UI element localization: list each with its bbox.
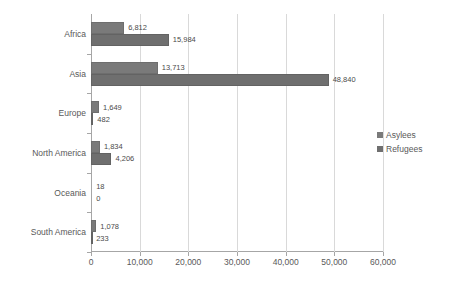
category-label: Africa bbox=[0, 29, 86, 39]
value-tick-label: 30,000 bbox=[224, 257, 250, 267]
bar-refugees-south-america bbox=[91, 232, 93, 244]
legend-swatch-refugees-icon bbox=[377, 146, 383, 152]
bar-value-label: 0 bbox=[96, 194, 100, 203]
legend-swatch-asylees-icon bbox=[377, 132, 383, 138]
legend-item-asylees: Asylees bbox=[377, 128, 422, 142]
chart-legend: Asylees Refugees bbox=[377, 128, 422, 156]
bar-asylees-europe bbox=[91, 101, 99, 113]
bar-value-label: 4,206 bbox=[115, 154, 134, 163]
category-label: Europe bbox=[0, 108, 86, 118]
bar-value-label: 1,834 bbox=[104, 142, 123, 151]
bar-value-label: 1,078 bbox=[100, 222, 119, 231]
value-axis-line bbox=[91, 14, 92, 252]
value-tick-mark bbox=[188, 252, 189, 256]
bar-refugees-north-america bbox=[91, 153, 111, 165]
value-tick-mark bbox=[334, 252, 335, 256]
value-tick-label: 0 bbox=[89, 257, 94, 267]
bar-value-label: 1,649 bbox=[103, 103, 122, 112]
bar-value-label: 18 bbox=[96, 182, 104, 191]
gridline bbox=[286, 14, 287, 252]
bar-value-label: 15,984 bbox=[173, 35, 196, 44]
value-tick-label: 20,000 bbox=[175, 257, 201, 267]
bar-asylees-south-america bbox=[91, 220, 96, 232]
bar-refugees-europe bbox=[91, 113, 93, 125]
gridline bbox=[188, 14, 189, 252]
legend-label-asylees: Asylees bbox=[386, 130, 416, 140]
category-tick-mark bbox=[87, 133, 91, 134]
bar-asylees-north-america bbox=[91, 141, 100, 153]
value-tick-mark bbox=[91, 252, 92, 256]
category-tick-mark bbox=[87, 54, 91, 55]
bar-value-label: 233 bbox=[96, 234, 109, 243]
value-tick-mark bbox=[286, 252, 287, 256]
bar-asylees-asia bbox=[91, 62, 158, 74]
category-label: South America bbox=[0, 227, 86, 237]
bar-value-label: 13,713 bbox=[162, 63, 185, 72]
category-tick-mark bbox=[87, 93, 91, 94]
bar-asylees-africa bbox=[91, 22, 124, 34]
legend-label-refugees: Refugees bbox=[386, 144, 422, 154]
value-tick-label: 60,000 bbox=[370, 257, 396, 267]
value-tick-label: 50,000 bbox=[321, 257, 347, 267]
category-label: Asia bbox=[0, 69, 86, 79]
bar-refugees-asia bbox=[91, 74, 329, 86]
value-tick-label: 40,000 bbox=[273, 257, 299, 267]
plot-area: 6,81215,98413,71348,8401,6494821,8344,20… bbox=[91, 14, 383, 252]
value-tick-mark bbox=[237, 252, 238, 256]
gridline bbox=[334, 14, 335, 252]
category-axis: AfricaAsiaEuropeNorth AmericaOceaniaSout… bbox=[0, 14, 86, 252]
category-tick-mark bbox=[87, 212, 91, 213]
value-tick-mark bbox=[383, 252, 384, 256]
bar-value-label: 48,840 bbox=[333, 75, 356, 84]
gridline bbox=[140, 14, 141, 252]
category-tick-mark bbox=[87, 173, 91, 174]
legend-item-refugees: Refugees bbox=[377, 142, 422, 156]
value-tick-label: 10,000 bbox=[127, 257, 153, 267]
category-label: Oceania bbox=[0, 188, 86, 198]
category-label: North America bbox=[0, 148, 86, 158]
gridline bbox=[237, 14, 238, 252]
value-tick-mark bbox=[140, 252, 141, 256]
bar-value-label: 482 bbox=[97, 115, 110, 124]
bar-chart: AfricaAsiaEuropeNorth AmericaOceaniaSout… bbox=[0, 0, 449, 284]
bar-value-label: 6,812 bbox=[128, 23, 147, 32]
bar-refugees-africa bbox=[91, 34, 169, 46]
